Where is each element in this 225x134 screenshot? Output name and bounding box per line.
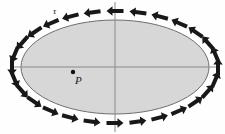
circulation-arrow xyxy=(61,10,80,23)
circulation-arrow xyxy=(150,111,169,124)
circulation-arrow xyxy=(61,111,80,124)
axes-group xyxy=(13,2,217,132)
circulation-arrow xyxy=(41,15,60,30)
point-p-label: P xyxy=(75,75,82,86)
circulation-arrow xyxy=(129,116,147,128)
circulation-arrow xyxy=(83,7,101,19)
figure-canvas xyxy=(0,0,225,134)
tau-label: τ xyxy=(53,7,56,16)
circulation-arrow xyxy=(129,7,147,19)
circulation-arrow xyxy=(41,103,60,118)
circulation-arrow xyxy=(170,15,189,30)
circulation-arrow xyxy=(170,103,189,118)
circulation-arrow xyxy=(150,10,169,23)
vector-field-ellipse-figure: τ P xyxy=(0,0,225,134)
circulation-arrow xyxy=(83,116,101,128)
